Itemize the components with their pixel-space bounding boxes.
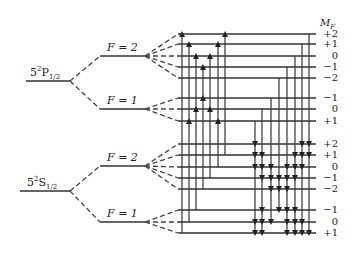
mf-label: 0 <box>316 162 338 172</box>
transition-lines <box>182 34 309 233</box>
p-f2-label: F = 2 <box>107 42 138 53</box>
mf-label: −1 <box>316 93 338 103</box>
mf-label: 0 <box>316 217 338 227</box>
mf-label: +1 <box>316 116 338 126</box>
mf-label: +1 <box>316 39 338 49</box>
mf-label: +1 <box>316 150 338 160</box>
state-label-s: 52S1/2 <box>27 176 57 191</box>
state-label-p: 52P1/2 <box>30 66 60 81</box>
s-f2-label: F = 2 <box>107 152 138 163</box>
mf-label: +1 <box>316 228 338 238</box>
mf-label: −2 <box>316 184 338 194</box>
p-f1-label: F = 1 <box>107 95 138 106</box>
mf-label: +2 <box>316 139 338 149</box>
mf-label: −2 <box>316 73 338 83</box>
energy-level-diagram: 52P1/2 52S1/2 F = 2 F = 1 F = 2 F = 1 MF… <box>0 0 352 253</box>
s-f1-label: F = 1 <box>107 208 138 219</box>
mf-label: −1 <box>316 173 338 183</box>
splitting-dashes <box>70 34 178 233</box>
mf-label: −1 <box>316 205 338 215</box>
diagram-canvas <box>0 0 352 253</box>
mf-label: 0 <box>316 104 338 114</box>
mf-label: 0 <box>316 51 338 61</box>
mf-label: −1 <box>316 62 338 72</box>
